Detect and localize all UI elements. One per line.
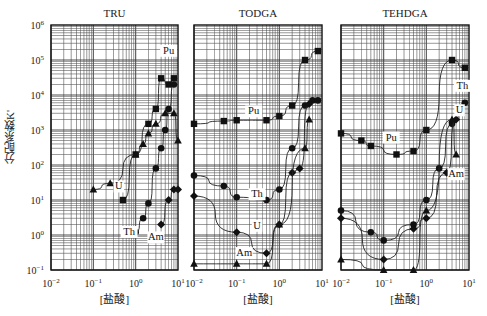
x-tick-label: 10−2 [332, 277, 350, 289]
diamond-marker [422, 214, 430, 222]
square-marker [263, 117, 269, 123]
series-label: Am [448, 168, 464, 179]
circle-marker [380, 237, 387, 244]
panel-todga: TODGA10−210−1100101[盐酸]PuThUAm [185, 7, 329, 305]
diamond-marker [296, 164, 304, 172]
series-pu: Pu [338, 57, 468, 158]
x-tick-label: 10−2 [42, 277, 60, 289]
square-marker [410, 148, 416, 154]
panel-title: TEHDGA [382, 7, 427, 19]
series-label: U [115, 180, 123, 191]
y-tick-label: 105 [31, 54, 45, 66]
x-axis-label: [盐酸] [390, 292, 419, 305]
x-tick-label: 100 [129, 277, 143, 289]
series-label: Pu [386, 132, 398, 143]
panel-title: TRU [104, 7, 126, 19]
square-marker [368, 143, 374, 149]
panel-title: TODGA [239, 7, 277, 19]
series-label: Pu [163, 45, 175, 56]
square-marker [423, 127, 429, 133]
x-tick-label: 10−1 [85, 277, 103, 289]
series-label: Th [457, 80, 469, 91]
diamond-marker [174, 185, 182, 193]
square-marker [338, 130, 344, 136]
y-tick-label: 106 [31, 19, 45, 31]
y-tick-label: 103 [31, 124, 45, 136]
panel-tru: TRU10−210−1100101[盐酸]1061051041031021011… [27, 7, 186, 305]
circle-marker [233, 194, 240, 201]
x-tick-label: 101 [462, 277, 476, 289]
square-marker [393, 151, 399, 157]
x-tick-label: 10−1 [228, 277, 246, 289]
circle-marker [423, 197, 430, 204]
diamond-marker [380, 255, 388, 263]
series-label: Pu [248, 105, 260, 116]
x-axis-label: [盐酸] [100, 292, 129, 305]
circle-marker [289, 145, 296, 152]
square-marker [153, 106, 159, 112]
circle-marker [145, 200, 152, 207]
square-marker [120, 197, 126, 203]
triangle-marker [233, 260, 241, 267]
y-tick-label: 102 [31, 159, 45, 171]
x-tick-label: 101 [171, 277, 185, 289]
square-marker [289, 102, 295, 108]
triangle-marker [301, 144, 309, 151]
square-marker [171, 75, 177, 81]
x-axis-label: [盐酸] [243, 292, 272, 305]
square-marker [191, 121, 197, 127]
diamond-marker [262, 249, 270, 257]
circle-marker [338, 207, 345, 214]
square-marker [221, 118, 227, 124]
circle-marker [276, 186, 283, 193]
square-marker [276, 113, 282, 119]
y-tick-label: 100 [31, 229, 45, 241]
square-marker [449, 57, 455, 63]
triangle-marker [190, 260, 198, 267]
series-label: Th [251, 188, 263, 199]
y-tick-label: 101 [31, 194, 45, 206]
circle-marker [315, 97, 322, 104]
x-tick-label: 101 [315, 277, 329, 289]
series-label: U [456, 104, 464, 115]
circle-marker [221, 183, 228, 190]
y-tick-label: 10−1 [27, 264, 45, 276]
x-tick-label: 10−2 [185, 277, 203, 289]
series-label: U [253, 220, 261, 231]
circle-marker [140, 215, 147, 222]
circle-marker [191, 172, 198, 179]
circle-marker [162, 127, 169, 134]
series-label: Am [236, 247, 252, 258]
circle-marker [171, 81, 178, 88]
series-label: Am [148, 231, 164, 242]
chart-figure: TRU10−210−1100101[盐酸]1061051041031021011… [0, 0, 487, 316]
triangle-marker [305, 115, 313, 122]
square-marker [358, 137, 364, 143]
x-tick-label: 10−1 [375, 277, 393, 289]
square-marker [315, 48, 321, 54]
square-marker [233, 117, 239, 123]
circle-marker [158, 145, 165, 152]
series-u: U [337, 104, 465, 263]
triangle-marker [337, 255, 345, 262]
x-tick-label: 100 [420, 277, 434, 289]
circle-marker [153, 165, 160, 172]
x-tick-label: 100 [273, 277, 287, 289]
circle-marker [368, 229, 375, 236]
square-marker [145, 121, 151, 127]
diamond-marker [337, 214, 345, 222]
square-marker [462, 65, 468, 71]
square-marker [302, 57, 308, 63]
diamond-marker [190, 192, 198, 200]
y-tick-label: 104 [31, 89, 45, 101]
square-marker [158, 75, 164, 81]
series-label: Th [123, 226, 135, 237]
triangle-marker [452, 150, 460, 157]
panel-tehdga: TEHDGA10−210−1100101[盐酸]PuThUAm [332, 7, 476, 305]
circle-marker [165, 106, 172, 113]
